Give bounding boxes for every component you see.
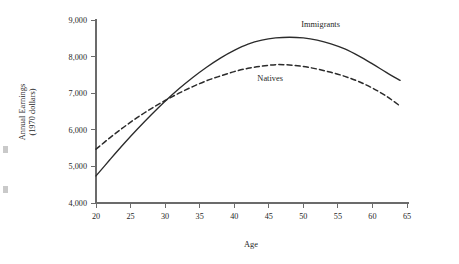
series-line-natives	[96, 65, 400, 150]
series-label-immigrants: Immigrants	[301, 20, 340, 29]
earnings-age-chart: 4,0005,0006,0007,0008,0009,000 202530354…	[0, 0, 459, 264]
y-tick-label-9000: 9,000	[69, 16, 87, 25]
x-tick-label-25: 25	[126, 212, 134, 221]
y-tick-label-8000: 8,000	[69, 53, 87, 62]
x-tick-label-40: 40	[230, 212, 238, 221]
x-tick-label-30: 30	[161, 212, 169, 221]
y-axis-title-line1: Annual Earnings	[18, 84, 27, 141]
y-axis: 4,0005,0006,0007,0008,0009,000	[69, 16, 96, 208]
y-tick-label-5000: 5,000	[69, 162, 87, 171]
x-tick-label-65: 65	[403, 212, 411, 221]
series-line-immigrants	[96, 37, 400, 176]
y-axis-title: Annual Earnings (1970 dollars)	[18, 84, 37, 141]
annotation-layer: ImmigrantsNatives	[257, 20, 340, 83]
x-axis-title: Age	[244, 240, 258, 249]
series-label-natives: Natives	[257, 74, 283, 83]
chart-canvas: 4,0005,0006,0007,0008,0009,000 202530354…	[0, 0, 459, 264]
y-tick-label-4000: 4,000	[69, 199, 87, 208]
series-layer	[96, 37, 400, 176]
y-axis-title-line2: (1970 dollars)	[28, 88, 37, 135]
y-tick-label-7000: 7,000	[69, 89, 87, 98]
x-tick-label-20: 20	[92, 212, 100, 221]
x-tick-label-45: 45	[265, 212, 273, 221]
x-tick-label-55: 55	[334, 212, 342, 221]
x-axis: 20253035404550556065	[92, 203, 411, 221]
x-tick-label-35: 35	[196, 212, 204, 221]
x-tick-label-60: 60	[368, 212, 376, 221]
x-tick-label-50: 50	[299, 212, 307, 221]
y-tick-label-6000: 6,000	[69, 126, 87, 135]
